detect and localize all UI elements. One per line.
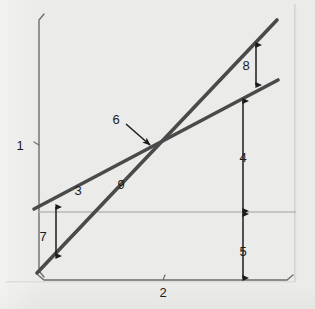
dimension-label-7: 7: [39, 230, 46, 243]
shallow-line-label: 3: [74, 184, 81, 197]
figure-container: 1 2 3 9 6 7 8 4 5: [0, 0, 315, 309]
intersection-label: 6: [112, 113, 119, 126]
dimension-label-4: 4: [239, 151, 246, 164]
x-axis-bracket: [38, 275, 293, 280]
steep-line-label: 9: [117, 178, 124, 191]
intersection-leader-arrow: [126, 124, 150, 145]
x-axis-label: 2: [159, 286, 166, 299]
dimension-label-8: 8: [242, 59, 249, 72]
diagram-svg: [0, 0, 315, 309]
dimension-label-5: 5: [239, 245, 246, 258]
shallow-line: [34, 80, 278, 209]
steep-line: [37, 20, 277, 273]
y-axis-label: 1: [16, 139, 23, 152]
dimension-arrows: [56, 45, 256, 278]
